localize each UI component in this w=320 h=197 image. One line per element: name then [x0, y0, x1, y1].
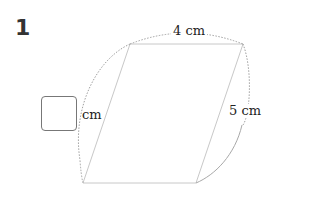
right-side-arc-lower — [196, 125, 242, 183]
right-side-label: 5 cm — [227, 104, 263, 118]
top-side-label: 4 cm — [171, 24, 207, 38]
answer-box[interactable] — [41, 96, 77, 131]
parallelogram-shape — [83, 44, 243, 183]
left-side-unit-label: cm — [80, 108, 104, 122]
